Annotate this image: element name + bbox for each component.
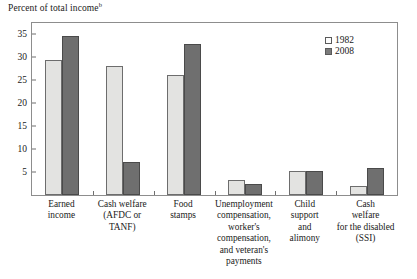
x-axis-category-labels: EarnedincomeCash welfare(AFDC orTANF)Foo… [31,199,398,279]
light-square-swatch [325,37,332,44]
chart-figure: Percent of total incomeb 5101520253035 1… [0,0,417,279]
y-axis-tick-label: 20 [5,98,27,108]
category-label-line: (SSI) [317,233,414,244]
bar-2008 [62,36,79,195]
bar-group [93,23,154,195]
x-axis-tick-mark [154,191,155,195]
plot-area: 5101520253035 19822008 [31,22,398,196]
category-label-line: for the disabled [317,222,414,233]
legend-label: 1982 [335,35,354,46]
bar-1982 [350,186,367,195]
x-axis-tick-mark [215,191,216,195]
y-axis-tick-label: 25 [5,75,27,85]
legend-label: 2008 [335,46,354,57]
legend: 19822008 [325,35,354,57]
y-axis-tick-label: 15 [5,121,27,131]
bar-1982 [289,171,306,195]
category-label-line: Cash [317,199,414,210]
category-label-line: TANF) [74,222,171,233]
bar-2008 [306,171,323,195]
bar-1982 [228,180,245,195]
bar-2008 [367,168,384,195]
bar-group [154,23,215,195]
bar-1982 [167,75,184,195]
bar-group [215,23,276,195]
category-label-line: payments [195,256,292,267]
x-axis-tick-mark [93,191,94,195]
category-label-line: and veteran's [195,245,292,256]
footnote-marker: b [99,1,102,8]
x-axis-category-label: Cashwelfarefor the disabled(SSI) [317,199,414,245]
bar-2008 [245,184,262,195]
legend-item: 1982 [325,35,354,46]
bar-group [32,23,93,195]
dark-square-swatch [325,48,332,55]
legend-item: 2008 [325,46,354,57]
y-axis-tick-label: 30 [5,52,27,62]
bar-2008 [184,44,201,195]
y-axis-tick-label: 5 [5,167,27,177]
x-axis-tick-mark [336,191,337,195]
bar-1982 [45,60,62,195]
category-label-line: welfare [317,210,414,221]
axis-title-text: Percent of total income [8,3,99,13]
x-axis-tick-mark [275,191,276,195]
axis-title: Percent of total incomeb [8,1,102,13]
bar-2008 [123,162,140,195]
y-axis-tick-label: 10 [5,144,27,154]
y-axis-tick-label: 35 [5,29,27,39]
bar-1982 [106,66,123,195]
